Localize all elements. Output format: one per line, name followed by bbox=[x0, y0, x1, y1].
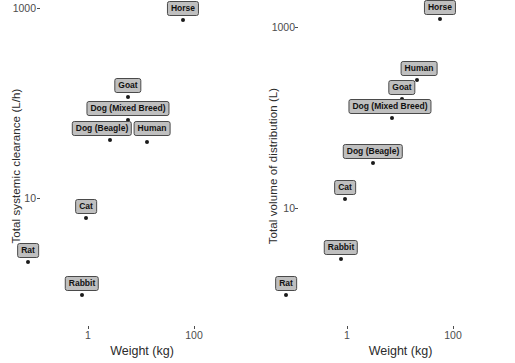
y-tick-label-10-clearance: 10 bbox=[2, 192, 36, 204]
point-label-rat: Rat bbox=[17, 243, 39, 258]
y-tick-mark-1000-volume bbox=[295, 27, 298, 28]
x-axis-title-clearance: Weight (kg) bbox=[40, 344, 244, 358]
data-point-rat bbox=[26, 260, 30, 264]
data-point-dog-beagle bbox=[371, 161, 375, 165]
y-tick-label-1000-clearance: 1000 bbox=[2, 2, 36, 14]
point-label-rabbit: Rabbit bbox=[65, 276, 99, 291]
data-point-rabbit bbox=[80, 293, 84, 297]
data-point-human bbox=[415, 78, 419, 82]
x-axis-title-volume: Weight (kg) bbox=[298, 344, 503, 358]
point-label-goat: Goat bbox=[388, 80, 415, 95]
point-label-dog-mixed-breed: Dog (Mixed Breed) bbox=[348, 99, 431, 114]
x-tick-label-1-clearance: 1 bbox=[68, 329, 108, 341]
point-label-human: Human bbox=[401, 61, 438, 76]
point-label-dog-beagle: Dog (Beagle) bbox=[343, 144, 403, 159]
data-point-dog-beagle bbox=[108, 138, 112, 142]
data-point-cat bbox=[84, 216, 88, 220]
data-point-goat bbox=[126, 95, 130, 99]
y-axis-title-clearance: Total systemic clearance (L/h) bbox=[10, 76, 22, 256]
panel-clearance: Total systemic clearance (L/h) 1000 10 1… bbox=[0, 0, 257, 363]
point-label-human: Human bbox=[134, 121, 171, 136]
point-label-horse: Horse bbox=[167, 1, 199, 16]
data-point-human bbox=[145, 140, 149, 144]
x-tick-label-1-volume: 1 bbox=[327, 329, 367, 341]
y-tick-label-10-volume: 10 bbox=[259, 202, 295, 214]
point-label-cat: Cat bbox=[334, 180, 356, 195]
point-label-cat: Cat bbox=[75, 199, 97, 214]
panel-volume: Total volume of distribution (L) 1000 10… bbox=[257, 0, 515, 363]
point-label-rat: Rat bbox=[275, 276, 297, 291]
x-tick-label-100-clearance: 100 bbox=[174, 329, 214, 341]
y-tick-label-1000-volume: 1000 bbox=[259, 21, 295, 33]
point-label-rabbit: Rabbit bbox=[324, 240, 358, 255]
data-point-horse bbox=[438, 17, 442, 21]
data-point-cat bbox=[343, 197, 347, 201]
data-point-rabbit bbox=[339, 257, 343, 261]
x-tick-label-100-volume: 100 bbox=[433, 329, 473, 341]
y-axis-title-volume: Total volume of distribution (L) bbox=[267, 76, 279, 256]
y-tick-mark-1000-clearance bbox=[37, 8, 40, 9]
point-label-goat: Goat bbox=[114, 78, 141, 93]
data-point-rat bbox=[284, 293, 288, 297]
y-tick-mark-10-clearance bbox=[37, 198, 40, 199]
figure-container: Total systemic clearance (L/h) 1000 10 1… bbox=[0, 0, 515, 363]
data-point-dog-mixed-breed bbox=[390, 116, 394, 120]
point-label-dog-mixed-breed: Dog (Mixed Breed) bbox=[86, 101, 169, 116]
data-point-horse bbox=[181, 18, 185, 22]
y-tick-mark-10-volume bbox=[295, 208, 298, 209]
point-label-dog-beagle: Dog (Beagle) bbox=[72, 121, 132, 136]
point-label-horse: Horse bbox=[424, 0, 456, 15]
